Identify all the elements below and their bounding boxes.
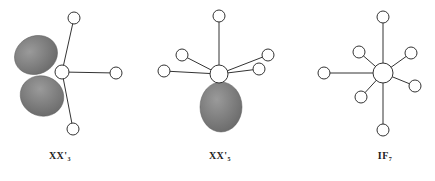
label-xx3-sub: 3 — [68, 156, 72, 162]
molecule-if7 — [318, 11, 421, 136]
ligand-atom-1 — [110, 67, 122, 79]
central-atom — [373, 63, 393, 83]
ligand-atom-4 — [253, 63, 265, 75]
label-if7-main: IF — [378, 150, 389, 161]
label-xx3: XX'3 — [30, 150, 90, 162]
label-xx5: XX'5 — [190, 150, 250, 162]
molecule-xx3 — [8, 12, 122, 135]
central-atom — [55, 65, 69, 79]
ligand-atom-0 — [213, 10, 225, 22]
molecule-xx5 — [158, 10, 274, 132]
ligand-atom-2 — [158, 65, 170, 77]
ligand-atom-4 — [405, 47, 417, 59]
ligand-atom-2 — [67, 123, 79, 135]
bond-1 — [62, 72, 116, 73]
label-if7: IF7 — [355, 150, 415, 162]
label-xx5-main: XX' — [209, 150, 228, 161]
label-if7-sub: 7 — [389, 156, 393, 162]
ligand-atom-3 — [262, 49, 274, 61]
ligand-atom-1 — [176, 49, 188, 61]
ligand-atom-0 — [68, 12, 80, 24]
bond-0 — [62, 18, 74, 72]
label-xx3-main: XX' — [49, 150, 68, 161]
ligand-atom-2 — [318, 67, 330, 79]
ligand-atom-0 — [377, 11, 389, 23]
ligand-atom-5 — [409, 80, 421, 92]
lone-pair-lobe-0 — [200, 82, 242, 132]
ligand-atom-3 — [353, 46, 365, 58]
ligand-atom-6 — [355, 91, 367, 103]
central-atom — [210, 65, 228, 83]
ligand-atom-1 — [377, 124, 389, 136]
label-xx5-sub: 5 — [228, 156, 232, 162]
